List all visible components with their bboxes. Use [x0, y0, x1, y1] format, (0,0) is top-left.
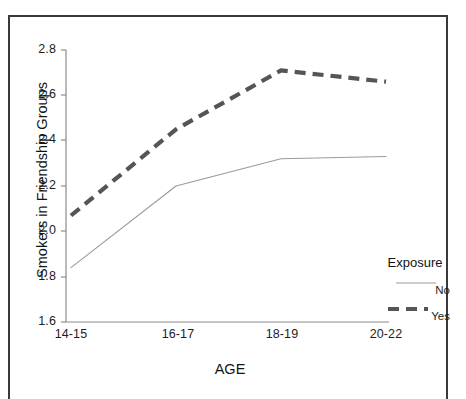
x-tick-label-16-17: 16-17	[148, 327, 208, 341]
legend-title: Exposure	[374, 255, 456, 270]
y-tick-label-1-6: 1.6	[22, 314, 56, 328]
x-tick-label-18-19: 18-19	[252, 327, 312, 341]
y-tick-label-2-8: 2.8	[22, 42, 56, 56]
series-line-no	[71, 157, 386, 268]
legend-sample-solid-icon	[374, 274, 456, 284]
legend-entry-yes: Yes	[374, 300, 456, 322]
x-axis-title: AGE	[60, 361, 400, 377]
x-tick-label-20-22: 20-22	[356, 327, 416, 341]
legend-sample-dashed-icon	[374, 300, 456, 310]
chart-figure: 2.8 2.6 2.4 2.2 2.0 1.8 1.6 14-15 16-17 …	[0, 0, 466, 399]
series-line-yes	[71, 70, 386, 215]
legend: Exposure No Yes	[374, 255, 456, 322]
x-tick-label-14-15: 14-15	[41, 327, 101, 341]
legend-entry-no: No	[374, 274, 456, 296]
y-axis-title: Smokers in Friendship Groups	[34, 55, 50, 305]
